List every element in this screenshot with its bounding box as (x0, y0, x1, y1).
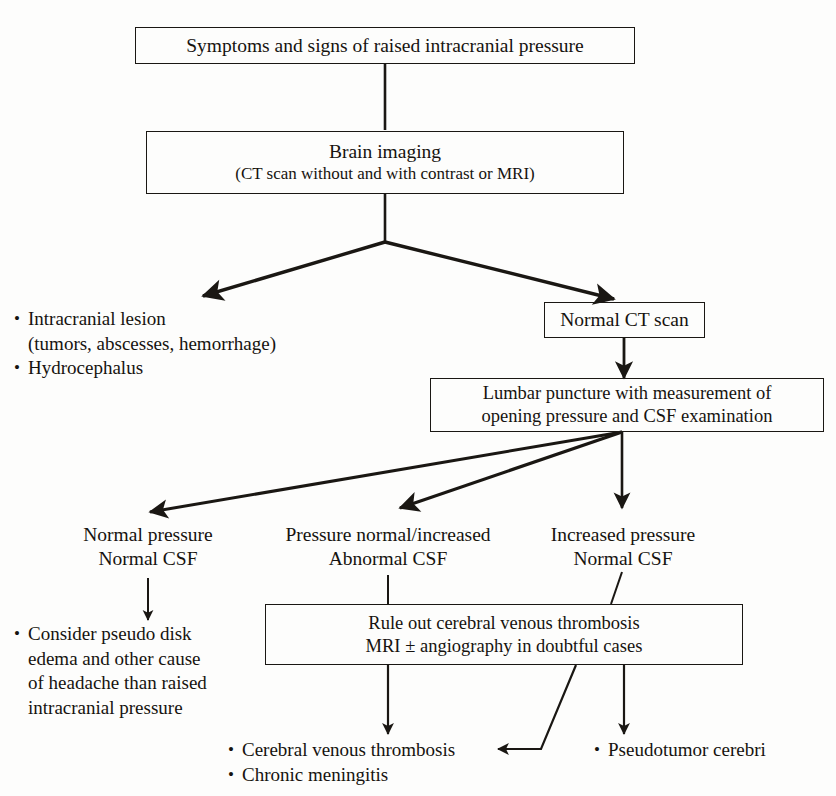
bullet-glyph: • (594, 738, 608, 761)
label-pressure-normal-increased-line1: Pressure normal/increased (264, 523, 512, 547)
box-rule-out-line2: MRI ± angiography in doubtful cases (366, 635, 643, 658)
list-item: • Hydrocephalus (14, 356, 276, 381)
box-lumbar-puncture: Lumbar puncture with measurement of open… (430, 378, 824, 432)
label-normal-pressure-line1: Normal pressure (48, 523, 248, 547)
bullet-glyph: • (228, 738, 242, 761)
box-normal-ct-scan-line1: Normal CT scan (560, 308, 689, 332)
box-symptoms-line1: Symptoms and signs of raised intracrania… (186, 34, 584, 58)
box-lumbar-puncture-line2: opening pressure and CSF examination (482, 405, 773, 428)
box-brain-imaging-line1: Brain imaging (329, 140, 441, 164)
bullet-list-thrombosis-outcomes: • Cerebral venous thrombosis • Chronic m… (228, 738, 455, 787)
connector-imaging-to-lesion (203, 242, 385, 296)
bullet-text: Cerebral venous thrombosis (242, 738, 455, 763)
label-normal-pressure: Normal pressure Normal CSF (48, 523, 248, 571)
box-symptoms: Symptoms and signs of raised intracrania… (135, 27, 635, 64)
box-brain-imaging-line2: (CT scan without and with contrast or MR… (235, 164, 535, 185)
bullet-continuation: (tumors, abscesses, hemorrhage) (28, 332, 276, 357)
list-item: • Consider pseudo disk edema and other c… (14, 622, 207, 721)
list-item: • Cerebral venous thrombosis (228, 738, 455, 763)
bullet-glyph: • (228, 763, 242, 786)
box-rule-out-line1: Rule out cerebral venous thrombosis (368, 612, 639, 635)
bullet-text: Intracranial lesion (28, 307, 276, 332)
label-normal-pressure-line2: Normal CSF (48, 547, 248, 571)
bullet-list-pseudo-disk: • Consider pseudo disk edema and other c… (14, 622, 207, 721)
connector-lp-to-abnormal-csf (400, 432, 622, 508)
connector-imaging-to-normal-ct (385, 242, 614, 299)
box-lumbar-puncture-line1: Lumbar puncture with measurement of (483, 382, 772, 405)
bullet-text: Hydrocephalus (28, 356, 143, 381)
label-pressure-normal-increased-line2: Abnormal CSF (264, 547, 512, 571)
connector-lp-to-normal-pressure (150, 432, 622, 512)
label-increased-pressure-line1: Increased pressure (530, 523, 716, 547)
flowchart-canvas: Symptoms and signs of raised intracrania… (0, 0, 836, 796)
box-normal-ct-scan: Normal CT scan (544, 302, 705, 338)
label-increased-pressure: Increased pressure Normal CSF (530, 523, 716, 571)
connector-increasedpressure-to-ruleout (611, 572, 622, 604)
bullet-line-2: edema and other cause (28, 647, 207, 672)
bullet-list-pseudotumor: • Pseudotumor cerebri (594, 738, 766, 763)
label-increased-pressure-line2: Normal CSF (530, 547, 716, 571)
bullet-glyph: • (14, 622, 28, 645)
bullet-text: Consider pseudo disk (28, 622, 207, 647)
bullet-line-3: of headache than raised (28, 671, 207, 696)
label-pressure-normal-increased: Pressure normal/increased Abnormal CSF (264, 523, 512, 571)
list-item: • Pseudotumor cerebri (594, 738, 766, 763)
list-item: • Intracranial lesion (tumors, abscesses… (14, 307, 276, 356)
bullet-line-4: intracranial pressure (28, 696, 207, 721)
bullet-glyph: • (14, 307, 28, 330)
bullet-text: Pseudotumor cerebri (608, 738, 766, 763)
box-brain-imaging: Brain imaging (CT scan without and with … (146, 131, 624, 194)
list-item: • Chronic meningitis (228, 763, 455, 788)
box-rule-out-thrombosis: Rule out cerebral venous thrombosis MRI … (265, 604, 743, 665)
connector-pseudotumor-to-thrombosis (498, 665, 576, 749)
bullet-glyph: • (14, 356, 28, 379)
bullet-text: Chronic meningitis (242, 763, 388, 788)
bullet-list-lesion-findings: • Intracranial lesion (tumors, abscesses… (14, 307, 276, 381)
